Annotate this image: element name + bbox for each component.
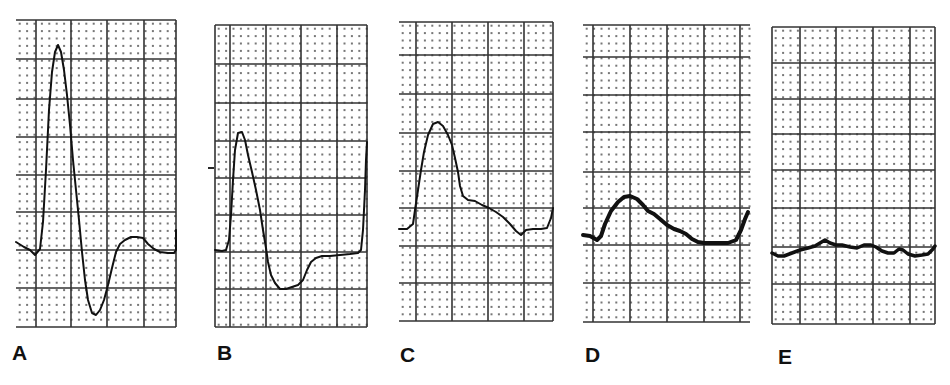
panel-label: E — [778, 346, 792, 367]
minor-grid-dots — [775, 30, 932, 321]
ecg-grid-e — [0, 0, 950, 385]
major-grid-lines — [772, 27, 935, 324]
